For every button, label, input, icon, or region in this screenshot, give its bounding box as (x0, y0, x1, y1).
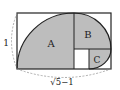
label-c: C (94, 55, 101, 65)
label-b: B (84, 29, 91, 40)
height-label: 1 (3, 38, 9, 48)
width-label: √5−1 (50, 77, 73, 87)
golden-rectangle-diagram: A B C 1 √5−1 (0, 0, 120, 90)
region-a-shape (17, 13, 74, 69)
label-a: A (46, 38, 55, 49)
height-dimension-arc (12, 13, 18, 69)
